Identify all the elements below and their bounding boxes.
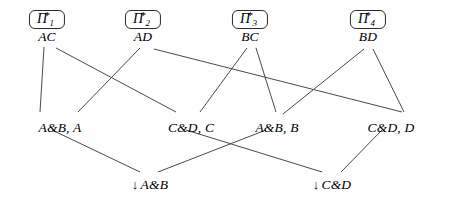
edge-cd_d-to-down_cd (341, 130, 382, 172)
edge-pi2-to-cd_d (154, 49, 402, 112)
top-node-label-pi1: AC (38, 29, 56, 45)
pi-subscript-index: 1 (50, 18, 55, 28)
pi-superscript-star: * (247, 9, 253, 21)
middle-node-cd_c[interactable]: C&D, C (168, 120, 214, 136)
edge-pi1-to-ab_a (40, 47, 44, 112)
down-arrow-icon: ↓ (313, 177, 322, 192)
middle-node-ab_b[interactable]: A&B, B (255, 120, 298, 136)
pi-subscript-index: 2 (146, 18, 151, 28)
bottom-node-label: C&D (321, 177, 351, 192)
top-node-label-pi4: BD (359, 29, 377, 45)
pi-superscript-star: * (365, 9, 371, 21)
top-node-pi3[interactable]: Π*3BC (232, 10, 268, 45)
pi-box-pi1: Π*1 (29, 10, 65, 29)
edge-pi4-to-ab_b (283, 49, 364, 114)
bottom-node-down_ab[interactable]: ↓A&B (132, 177, 168, 193)
down-arrow-icon: ↓ (132, 177, 141, 192)
pi-subscript-index: 3 (253, 18, 258, 28)
top-node-label-pi2: AD (134, 29, 152, 45)
middle-node-ab_a[interactable]: A&B, A (39, 120, 82, 136)
edge-pi1-to-cd_c (56, 48, 176, 112)
bottom-node-down_cd[interactable]: ↓C&D (313, 177, 352, 193)
top-node-label-pi3: BC (241, 29, 259, 45)
lattice-diagram: Π*1ACΠ*2ADΠ*3BCΠ*4BD A&B, AC&D, CA&B, BC… (0, 0, 455, 206)
edge-layer (0, 0, 455, 206)
pi-superscript-star: * (140, 9, 146, 21)
bottom-node-label: A&B (141, 177, 169, 192)
edge-pi3-to-ab_b (256, 48, 276, 112)
pi-box-pi3: Π*3 (232, 10, 268, 29)
edge-ab_a-to-down_ab (52, 130, 140, 172)
pi-box-pi4: Π*4 (350, 10, 386, 29)
edge-pi4-to-cd_d (373, 49, 404, 112)
edge-cd_c-to-down_cd (186, 130, 322, 172)
edge-pi3-to-cd_c (200, 48, 247, 112)
pi-subscript-index: 4 (371, 18, 376, 28)
top-node-pi4[interactable]: Π*4BD (350, 10, 386, 45)
pi-superscript-star: * (44, 9, 50, 21)
middle-node-cd_d[interactable]: C&D, D (368, 120, 415, 136)
top-node-pi2[interactable]: Π*2AD (125, 10, 161, 45)
edge-pi2-to-ab_a (78, 48, 140, 112)
top-node-pi1[interactable]: Π*1AC (29, 10, 65, 45)
pi-box-pi2: Π*2 (125, 10, 161, 29)
edge-ab_b-to-down_ab (158, 130, 266, 172)
